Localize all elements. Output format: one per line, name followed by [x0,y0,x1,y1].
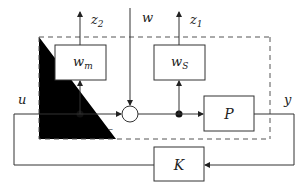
z2-label: z2 [90,12,104,29]
w-label: w [142,10,153,25]
controller-label: K [173,157,186,173]
plant-label: P [223,106,234,122]
z1-label: z1 [189,12,203,29]
y-label: y [283,92,292,107]
block-diagram: wm wS P K – z2 w z1 u y [0,0,308,190]
minus-sign: – [108,123,113,134]
u-label: u [18,92,26,107]
summing-junction [122,106,138,122]
